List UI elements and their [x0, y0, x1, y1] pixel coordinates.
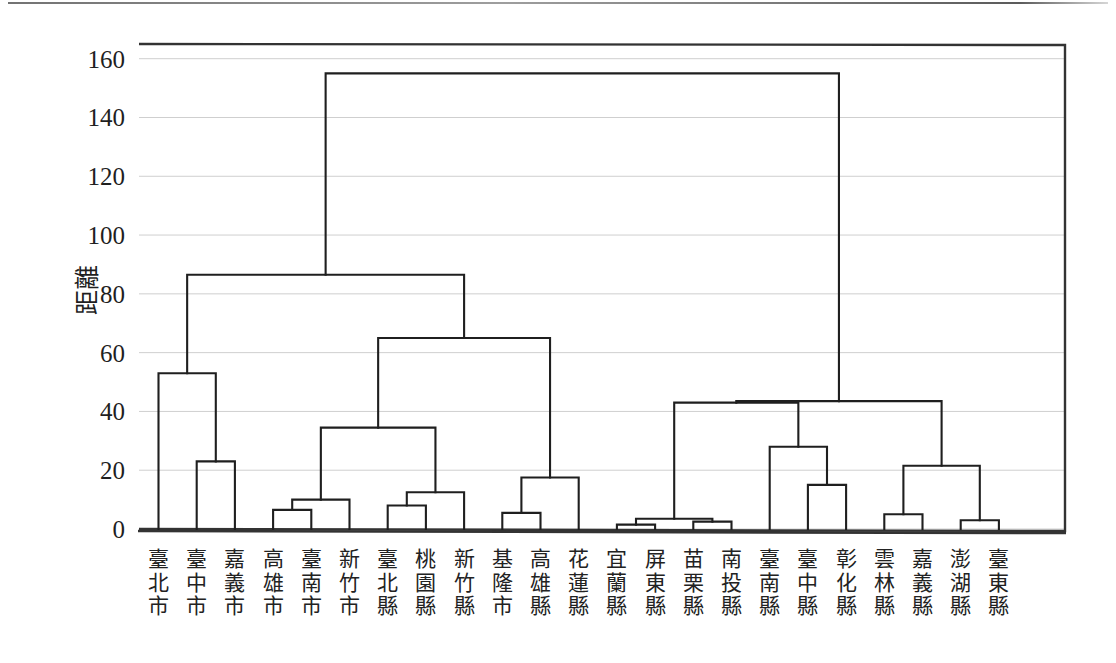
x-label-char: 北: [148, 571, 169, 595]
x-label-char: 縣: [377, 594, 398, 618]
x-label-12: 花蓮縣: [568, 547, 589, 618]
x-label-char: 栗: [683, 571, 704, 595]
x-label-char: 縣: [415, 594, 436, 618]
x-label-1: 臺北市: [148, 547, 169, 618]
x-label-19: 彰化縣: [836, 547, 857, 618]
y-tick-label-160: 160: [88, 46, 126, 73]
dendrogram-link-m15: [808, 485, 846, 529]
x-label-8: 桃園縣: [415, 547, 436, 618]
dendrogram-link-m3: [273, 510, 311, 529]
x-label-char: 市: [339, 594, 360, 618]
x-label-16: 南投縣: [721, 547, 742, 618]
x-label-char: 園: [415, 571, 436, 595]
x-label-char: 縣: [874, 594, 895, 618]
y-tick-label-80: 80: [100, 281, 125, 308]
dendrogram-link-m19: [961, 520, 999, 529]
x-label-char: 縣: [721, 594, 742, 618]
dendrogram-link-m22: [326, 73, 839, 401]
dendrogram-link-m13: [693, 522, 731, 529]
x-label-char: 中: [186, 571, 207, 595]
x-label-char: 竹: [339, 571, 360, 595]
y-tick-label-140: 140: [88, 104, 126, 131]
x-label-char: 臺: [377, 547, 398, 571]
x-label-char: 市: [263, 594, 284, 618]
x-label-char: 南: [721, 547, 742, 571]
x-label-6: 新竹市: [339, 547, 360, 618]
x-label-char: 嘉: [224, 547, 245, 571]
dendrogram-link-m4: [292, 500, 349, 529]
dendrogram-link-m7: [321, 428, 436, 500]
x-label-char: 新: [339, 547, 360, 571]
x-label-char: 雲: [874, 547, 895, 571]
y-tick-label-0: 0: [113, 516, 126, 543]
x-label-17: 臺南縣: [759, 547, 780, 618]
x-label-char: 縣: [645, 594, 666, 618]
x-label-char: 化: [836, 571, 857, 595]
x-label-char: 中: [797, 571, 818, 595]
x-label-21: 嘉義縣: [912, 547, 933, 618]
x-label-char: 投: [721, 571, 742, 595]
x-label-10: 基隆市: [492, 547, 513, 618]
x-label-char: 雄: [530, 571, 551, 595]
dendrogram-link-m20: [903, 466, 979, 520]
x-label-23: 臺東縣: [988, 547, 1009, 618]
x-label-18: 臺中縣: [797, 547, 818, 618]
dendrogram-chart: 020406080100120140160 距離 臺北市臺中市嘉義市高雄市臺南市…: [0, 0, 1116, 663]
x-label-14: 屏東縣: [645, 547, 666, 618]
x-label-7: 臺北縣: [377, 547, 398, 618]
dendrogram-link-m1: [197, 461, 235, 529]
x-label-2: 臺中市: [186, 547, 207, 618]
x-label-char: 新: [454, 547, 475, 571]
x-label-char: 花: [568, 547, 589, 571]
x-label-char: 縣: [950, 594, 971, 618]
x-label-char: 高: [263, 547, 284, 571]
dendrogram-page: 020406080100120140160 距離 臺北市臺中市嘉義市高雄市臺南市…: [0, 0, 1116, 663]
x-label-char: 縣: [606, 594, 627, 618]
x-label-char: 東: [988, 571, 1009, 595]
dendrogram-svg: 020406080100120140160 距離 臺北市臺中市嘉義市高雄市臺南市…: [0, 0, 1116, 663]
dendrogram-link-m18: [884, 514, 922, 529]
x-label-char: 嘉: [912, 547, 933, 571]
x-label-char: 臺: [988, 547, 1009, 571]
x-label-char: 臺: [797, 547, 818, 571]
x-label-char: 隆: [492, 571, 513, 595]
x-label-5: 臺南市: [301, 547, 322, 618]
y-axis-title: 距離: [73, 265, 102, 315]
x-label-char: 縣: [568, 594, 589, 618]
x-label-char: 蘭: [606, 571, 627, 595]
y-axis-title-text: 距離: [73, 265, 102, 315]
x-label-char: 縣: [912, 594, 933, 618]
x-label-char: 南: [301, 571, 322, 595]
x-label-char: 市: [301, 594, 322, 618]
dendrogram-link-m17: [674, 403, 798, 519]
x-label-char: 縣: [836, 594, 857, 618]
x-label-char: 義: [912, 571, 933, 595]
x-label-13: 宜蘭縣: [606, 547, 627, 618]
x-label-char: 南: [759, 571, 780, 595]
x-label-15: 苗栗縣: [683, 547, 704, 618]
x-label-char: 湖: [950, 571, 971, 595]
dendrogram-link-m6: [407, 492, 464, 529]
x-category-labels: 臺北市臺中市嘉義市高雄市臺南市新竹市臺北縣桃園縣新竹縣基隆市高雄縣花蓮縣宜蘭縣屏…: [148, 547, 1009, 618]
x-label-4: 高雄市: [263, 547, 284, 618]
x-label-char: 縣: [759, 594, 780, 618]
x-label-char: 臺: [301, 547, 322, 571]
y-tick-label-20: 20: [100, 457, 125, 484]
x-label-char: 蓮: [568, 571, 589, 595]
x-label-char: 彰: [836, 547, 857, 571]
x-label-11: 高雄縣: [530, 547, 551, 618]
x-label-char: 宜: [606, 547, 627, 571]
x-label-char: 縣: [797, 594, 818, 618]
x-label-char: 市: [224, 594, 245, 618]
x-label-char: 林: [874, 571, 895, 595]
x-label-char: 臺: [759, 547, 780, 571]
x-label-char: 雄: [263, 571, 284, 595]
x-label-char: 高: [530, 547, 551, 571]
x-label-char: 臺: [186, 547, 207, 571]
x-label-char: 市: [148, 594, 169, 618]
x-label-char: 北: [377, 571, 398, 595]
x-label-char: 縣: [683, 594, 704, 618]
gridlines-group: [139, 59, 1065, 529]
dendrogram-link-m8: [502, 513, 540, 529]
dendrogram-link-m16: [770, 447, 827, 529]
